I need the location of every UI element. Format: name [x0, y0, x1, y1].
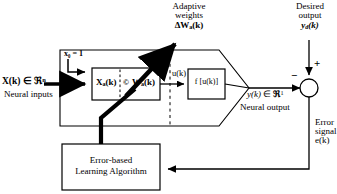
bias-arrow	[68, 59, 85, 72]
activation-to-apex-line	[225, 84, 249, 88]
error-signal-caption: Error signal e(k)	[315, 118, 337, 146]
activation-box-label: f [u(k)]	[188, 78, 225, 86]
sum-plus-sign: +	[314, 58, 320, 69]
x-symbol: X(k)	[2, 76, 20, 86]
weights-operator-icon: ©	[123, 79, 129, 87]
x-dimension: n	[42, 76, 46, 83]
neural-input-symbol: X(k) ∈ ℜn	[2, 77, 46, 87]
xa-index: (k)	[106, 77, 117, 87]
neural-output-caption: Neural output	[240, 103, 290, 112]
adaptive-weights-line2: weights	[152, 11, 226, 20]
learning-algorithm-label: Error-based Learning Algorithm	[62, 155, 160, 178]
w-index: (k)	[192, 20, 203, 30]
wa-index: (k)	[144, 77, 155, 87]
wa-symbol: W	[132, 77, 141, 87]
desired-output-symbol: yd(k)	[283, 21, 337, 31]
learning-line2: Learning Algorithm	[62, 166, 160, 177]
adaptive-weights-caption: Adaptive weights ΔWa(k)	[152, 2, 226, 31]
weights-box-wa: Wa(k)	[132, 78, 155, 88]
diagram-canvas: Adaptive weights ΔWa(k) Desired output y…	[0, 0, 337, 194]
element-of-icon: ∈	[23, 76, 32, 86]
weights-box-xa: Xa(k)	[96, 78, 117, 88]
y-dimension: 1	[280, 90, 283, 96]
learning-line1: Error-based	[62, 155, 160, 166]
w-symbol: W	[180, 20, 189, 30]
neural-inputs-caption: Neural inputs	[4, 90, 53, 99]
adaptive-weights-symbol: ΔWa(k)	[152, 21, 226, 31]
summing-junction-icon	[300, 79, 318, 97]
sum-minus-sign: −	[291, 70, 297, 81]
desired-output-caption: Desired output yd(k)	[283, 2, 337, 31]
u-label: u(k)	[172, 69, 186, 78]
desired-output-line2: output	[283, 11, 337, 20]
y-symbol: y(k)	[247, 89, 261, 99]
neural-output-symbol: y(k) ∈ ℜ1	[247, 90, 284, 99]
yd-index: (k)	[308, 20, 319, 30]
bias-label: x₀ = 1	[64, 50, 83, 58]
error-line3: e(k)	[315, 136, 337, 145]
